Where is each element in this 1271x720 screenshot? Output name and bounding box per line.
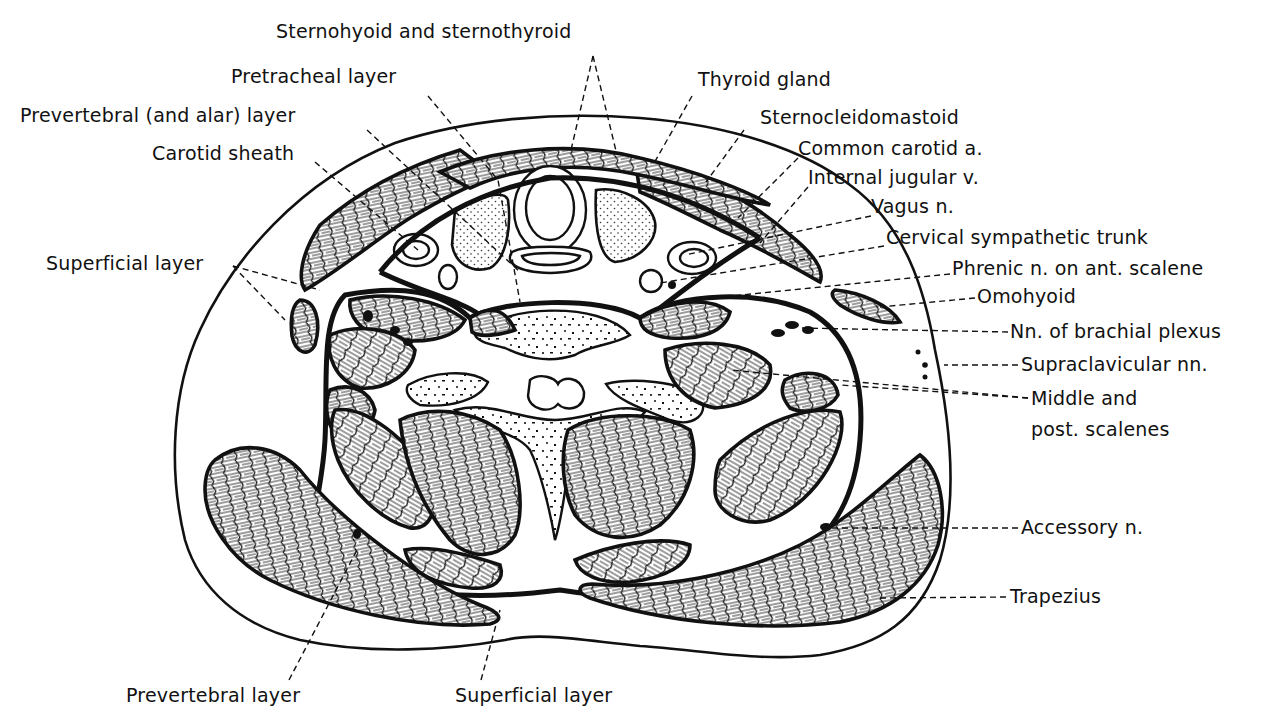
brachial-plexus-nerve-1 [771, 329, 785, 337]
label-vagus: Vagus n. [871, 195, 954, 217]
label-superficial-layer-left: Superficial layer [46, 252, 203, 274]
leader-line-sternohyoid-sternothyroid [571, 56, 593, 150]
leader-line-omohyoid [880, 298, 975, 307]
label-superficial-layer-bottom: Superficial layer [455, 684, 612, 706]
omohyoid-left [291, 300, 317, 352]
brachial-plexus-nerve-3 [802, 326, 814, 334]
label-thyroid-gland: Thyroid gland [697, 68, 831, 90]
label-phrenic: Phrenic n. on ant. scalene [952, 257, 1203, 279]
longus-colli-left [470, 310, 515, 335]
common-carotid-right [640, 270, 662, 292]
supraclavicular-nerve-1 [916, 350, 921, 355]
label-brachial-plexus: Nn. of brachial plexus [1010, 320, 1221, 342]
brachial-plexus-nerve-2 [785, 321, 799, 329]
levator-scapulae-right [782, 373, 838, 411]
neck-cross-section-figure: Sternohyoid and sternothyroidPretracheal… [0, 0, 1271, 720]
leader-line-middle-scalenes [840, 385, 1028, 398]
common-carotid-left [439, 265, 457, 289]
anterior-scalene-right [640, 302, 730, 338]
supraclavicular-nerve-2 [922, 362, 928, 368]
esophagus-lumen [522, 253, 580, 265]
label-omohyoid: Omohyoid [977, 285, 1076, 307]
brachial-plexus-left-1 [363, 310, 373, 322]
label-trapezius: Trapezius [1009, 585, 1101, 607]
label-post-scalenes: post. scalenes [1031, 418, 1170, 440]
semispinalis-right [563, 416, 693, 538]
semispinalis-left [400, 411, 520, 554]
supraclavicular-nerve-3 [923, 375, 928, 380]
leader-line-sternohyoid-sternothyroid [593, 56, 617, 155]
brachial-plexus-left-2 [390, 326, 400, 334]
label-sternocleidomastoid: Sternocleidomastoid [760, 106, 959, 128]
label-common-carotid: Common carotid a. [798, 137, 983, 159]
spinal-cord [528, 376, 584, 409]
label-pretracheal-layer: Pretracheal layer [231, 65, 396, 87]
label-internal-jugular: Internal jugular v. [808, 166, 979, 188]
label-prevertebral-layer: Prevertebral layer [126, 684, 300, 706]
middle-posterior-scalene-left [329, 329, 415, 389]
label-carotid-sheath: Carotid sheath [152, 142, 294, 164]
label-accessory: Accessory n. [1021, 516, 1143, 538]
deep-back-right [575, 541, 690, 582]
label-middle-scalenes: Middle and [1031, 387, 1138, 409]
thyroid-lobe-right [596, 189, 656, 262]
leader-line-thyroid-gland [653, 96, 692, 165]
leader-line-common-carotid [738, 158, 798, 218]
label-prevertebral-alar-layer: Prevertebral (and alar) layer [20, 104, 295, 126]
accessory-nerve-left [353, 529, 361, 539]
label-sternohyoid-sternothyroid: Sternohyoid and sternothyroid [276, 20, 572, 42]
accessory-nerve-right [820, 523, 832, 531]
brachial-plexus-left-3 [403, 338, 413, 346]
transverse-process-left [407, 373, 488, 405]
leader-line-sternocleidomastoid [706, 130, 744, 182]
label-supraclavicular: Supraclavicular nn. [1021, 353, 1208, 375]
trachea-lumen [526, 176, 574, 240]
leader-line-middle-scalenes [730, 370, 1028, 398]
label-cervical-sympathetic-trunk: Cervical sympathetic trunk [886, 226, 1148, 248]
vagus-nerve-right [668, 281, 676, 289]
leader-line-superficial-layer-left [233, 266, 285, 320]
splenius-right [715, 410, 842, 522]
